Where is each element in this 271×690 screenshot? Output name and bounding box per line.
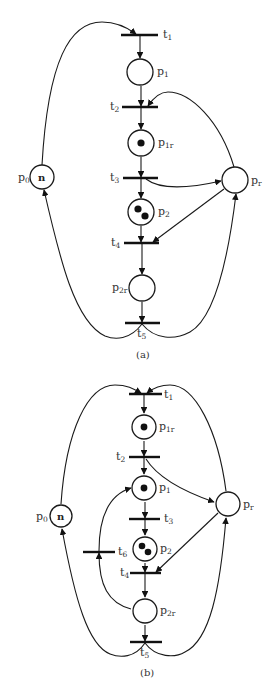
label-p2: p2 — [158, 205, 170, 219]
label-t4: t4 — [120, 566, 129, 580]
caption-a: (a) — [136, 349, 150, 360]
caption-b: (b) — [140, 667, 154, 678]
label-p1: p1 — [157, 65, 169, 79]
token — [139, 543, 146, 550]
diagram-b: n p0 t1 p1r t2 p1 t3 t6 p2 t4 p2r t5 pr … — [36, 385, 254, 678]
token — [134, 205, 141, 212]
token — [141, 485, 148, 492]
petri-net-figure: n p0 t1 p1 t2 p1r t3 p2 t4 p2r t5 pr (a) — [0, 0, 271, 690]
token — [141, 212, 148, 219]
p0-marking: n — [38, 172, 46, 183]
label-p1r: p1r — [159, 420, 175, 434]
label-p0: p0 — [36, 510, 48, 524]
label-t2: t2 — [110, 100, 119, 114]
label-p1r: p1r — [158, 136, 174, 150]
place-p2 — [133, 537, 157, 561]
arc-t3-pr — [146, 179, 221, 187]
token — [145, 549, 152, 556]
arc-t6-p1 — [99, 488, 131, 551]
place-p2r — [129, 275, 155, 301]
arc-p2r-t6 — [99, 553, 131, 609]
label-t4: t4 — [111, 236, 120, 250]
arc-p0-t1 — [61, 385, 141, 504]
label-p0: p0 — [18, 171, 30, 185]
label-t1: t1 — [164, 388, 173, 402]
token — [141, 424, 148, 431]
label-t1: t1 — [163, 28, 172, 42]
label-p2: p2 — [160, 542, 172, 556]
arc-t2-pr — [146, 459, 214, 502]
label-pr: pr — [243, 498, 254, 512]
place-pr — [222, 167, 248, 193]
place-pr — [216, 492, 240, 516]
label-t3: t3 — [164, 512, 173, 526]
arc-t5-pr — [145, 518, 226, 656]
label-p2r: p2r — [160, 604, 176, 618]
label-p1: p1 — [159, 481, 171, 495]
label-t2: t2 — [116, 450, 125, 464]
arc-t5-p0 — [44, 190, 142, 338]
label-t5: t5 — [137, 327, 146, 341]
p0-marking: n — [57, 511, 65, 522]
label-p2r: p2r — [112, 281, 128, 295]
label-t5: t5 — [140, 646, 149, 660]
label-pr: pr — [251, 174, 262, 188]
label-t6: t6 — [118, 545, 127, 559]
place-p2r — [133, 599, 157, 623]
label-t3: t3 — [110, 171, 119, 185]
arc-p0-t1 — [42, 22, 136, 165]
place-p1 — [127, 59, 153, 85]
arc-pr-t2 — [148, 92, 234, 167]
place-p2 — [128, 199, 154, 225]
arc-pr-t1 — [147, 385, 226, 491]
diagram-a: n p0 t1 p1 t2 p1r t3 p2 t4 p2r t5 pr (a) — [18, 22, 262, 360]
token — [137, 139, 144, 146]
